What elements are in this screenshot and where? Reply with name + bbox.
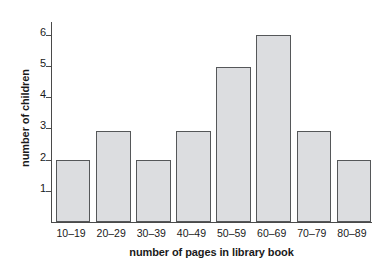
x-axis-tick-labels: 10–1920–2930–3940–4950–5960–6970–7980–89 — [51, 226, 372, 242]
x-axis-tick-label: 20–29 — [91, 226, 131, 240]
plot-area — [51, 22, 372, 222]
x-axis-tick-label: 80–89 — [332, 226, 372, 240]
x-axis-tick-label: 50–59 — [212, 226, 252, 240]
bar — [96, 131, 131, 222]
y-axis-tick-mark — [46, 97, 51, 98]
bar — [136, 160, 171, 223]
y-axis-tick-label: 5 — [30, 58, 46, 69]
y-axis-tick-label: 4 — [30, 89, 46, 100]
y-axis-tick-label: 3 — [30, 120, 46, 131]
x-axis-tick-label: 70–79 — [292, 226, 332, 240]
bar — [256, 35, 291, 223]
bar — [176, 131, 211, 222]
y-axis-tick-mark — [46, 191, 51, 192]
y-axis-tick-mark — [46, 160, 51, 161]
y-axis-tick-mark — [46, 66, 51, 67]
y-axis-tick-label: 1 — [30, 183, 46, 194]
x-axis-line — [51, 222, 372, 223]
y-axis-tick-labels: 123456 — [30, 20, 46, 222]
y-axis-tick-label: 2 — [30, 152, 46, 163]
bar — [216, 67, 251, 222]
x-axis-tick-label: 60–69 — [252, 226, 292, 240]
x-axis-tick-label: 30–39 — [131, 226, 171, 240]
bar — [297, 131, 332, 222]
bar — [56, 160, 91, 223]
y-axis-tick-mark — [46, 35, 51, 36]
bar-chart-figure: number of children 123456 10–1920–2930–3… — [0, 0, 381, 270]
x-axis-title: number of pages in library book — [51, 245, 372, 259]
y-axis-tick-mark — [46, 128, 51, 129]
x-axis-tick-label: 40–49 — [171, 226, 211, 240]
y-axis-tick-label: 6 — [30, 27, 46, 38]
x-axis-tick-label: 10–19 — [51, 226, 91, 240]
bar — [337, 160, 372, 223]
